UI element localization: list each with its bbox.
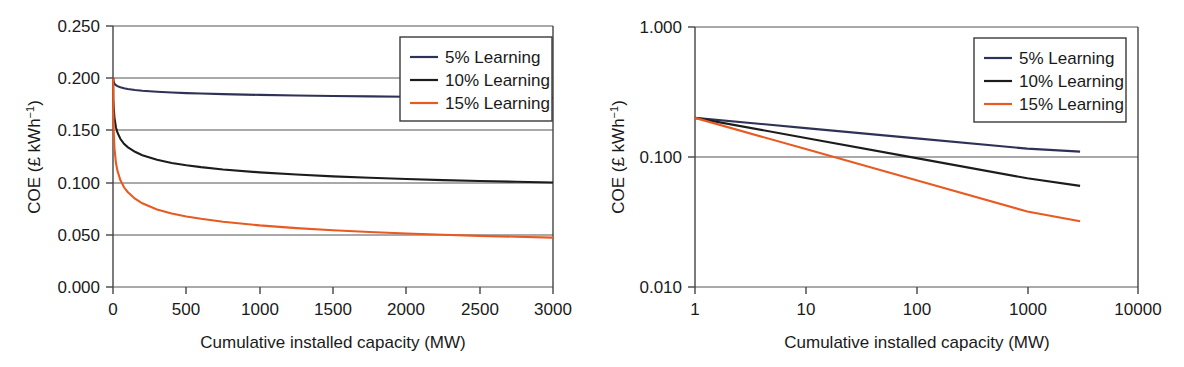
legend-label-10-percent: 10% Learning bbox=[1019, 72, 1124, 91]
x-tick-label: 1500 bbox=[314, 300, 352, 319]
x-axis-title: Cumulative installed capacity (MW) bbox=[200, 333, 465, 352]
x-tick-label: 1000 bbox=[241, 300, 279, 319]
y-tick-label: 0.050 bbox=[57, 226, 100, 245]
y-axis-title-main: COE (£ kWh bbox=[25, 118, 44, 213]
legend-label-15-percent: 15% Learning bbox=[445, 94, 550, 113]
x-tick-label: 10000 bbox=[1114, 300, 1161, 319]
y-axis-ticks bbox=[106, 26, 113, 287]
x-tick-label: 0 bbox=[108, 300, 117, 319]
x-tick-label: 10 bbox=[797, 300, 816, 319]
curve-10-percent-learning bbox=[695, 118, 1080, 186]
y-tick-label: 0.250 bbox=[57, 17, 100, 36]
y-tick-labels: 1.000 0.100 0.010 bbox=[639, 18, 682, 297]
legend-label-5-percent: 5% Learning bbox=[1019, 49, 1114, 68]
y-axis-title-tail: ) bbox=[25, 100, 44, 106]
legend-linear: 5% Learning 10% Learning 15% Learning bbox=[400, 37, 552, 121]
y-axis-title-superscript: −1 bbox=[24, 106, 36, 119]
y-tick-label: 0.100 bbox=[639, 148, 682, 167]
x-tick-label: 1000 bbox=[1009, 300, 1047, 319]
data-curves bbox=[695, 118, 1080, 221]
curve-15-percent-learning bbox=[695, 118, 1080, 221]
x-tick-label: 100 bbox=[903, 300, 931, 319]
y-axis-title-main: COE (£ kWh bbox=[609, 118, 628, 213]
y-tick-label: 1.000 bbox=[639, 18, 682, 37]
legend-log: 5% Learning 10% Learning 15% Learning bbox=[974, 38, 1126, 122]
chart-panel-linear: 0.250 0.200 0.150 0.100 0.050 0.000 0 50… bbox=[0, 0, 592, 367]
svg-text:COE (£ kWh−1): COE (£ kWh−1) bbox=[24, 100, 44, 214]
chart-panel-log: 1.000 0.100 0.010 1 10 100 1000 10000 Cu… bbox=[592, 0, 1184, 367]
x-tick-labels: 0 500 1000 1500 2000 2500 3000 bbox=[108, 300, 572, 319]
legend-label-10-percent: 10% Learning bbox=[445, 71, 550, 90]
y-axis-title: COE (£ kWh−1) bbox=[608, 100, 628, 214]
y-tick-label: 0.150 bbox=[57, 121, 100, 140]
x-tick-label: 3000 bbox=[534, 300, 572, 319]
x-axis-ticks bbox=[113, 287, 553, 294]
figure-two-panel-learning-curves: 0.250 0.200 0.150 0.100 0.050 0.000 0 50… bbox=[0, 0, 1184, 367]
legend-label-15-percent: 15% Learning bbox=[1019, 95, 1124, 114]
y-axis-title-superscript: −1 bbox=[608, 106, 620, 119]
y-axis-title: COE (£ kWh−1) bbox=[24, 100, 44, 214]
x-tick-label: 1 bbox=[690, 300, 699, 319]
y-axis-ticks bbox=[688, 27, 695, 287]
x-tick-label: 2000 bbox=[387, 300, 425, 319]
y-tick-label: 0.100 bbox=[57, 174, 100, 193]
y-axis-title-tail: ) bbox=[609, 100, 628, 106]
x-tick-label: 500 bbox=[172, 300, 200, 319]
x-tick-labels: 1 10 100 1000 10000 bbox=[690, 300, 1161, 319]
y-tick-label: 0.010 bbox=[639, 278, 682, 297]
log-chart-svg: 1.000 0.100 0.010 1 10 100 1000 10000 Cu… bbox=[592, 0, 1184, 367]
y-tick-labels: 0.250 0.200 0.150 0.100 0.050 0.000 bbox=[57, 17, 100, 297]
svg-text:COE (£ kWh−1): COE (£ kWh−1) bbox=[608, 100, 628, 214]
x-tick-label: 2500 bbox=[461, 300, 499, 319]
linear-chart-svg: 0.250 0.200 0.150 0.100 0.050 0.000 0 50… bbox=[0, 0, 592, 367]
y-tick-label: 0.200 bbox=[57, 69, 100, 88]
y-tick-label: 0.000 bbox=[57, 278, 100, 297]
x-axis-ticks bbox=[695, 287, 1138, 294]
x-axis-title: Cumulative installed capacity (MW) bbox=[784, 333, 1049, 352]
legend-label-5-percent: 5% Learning bbox=[445, 48, 540, 67]
